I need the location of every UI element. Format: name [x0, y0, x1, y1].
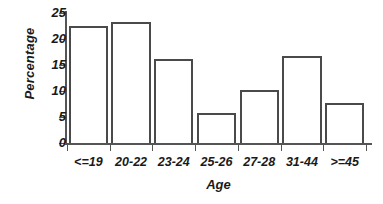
x-tick-label-20-22: 20-22 — [110, 155, 153, 169]
x-tick-label-23-24: 23-24 — [152, 155, 195, 169]
bar-31-44 — [282, 56, 321, 145]
bar-27-28 — [240, 90, 279, 145]
bar-20-22 — [111, 22, 150, 145]
y-tick-label: 15 — [18, 57, 66, 72]
bar-<=19 — [69, 26, 108, 145]
x-axis-line — [65, 143, 372, 145]
y-tick-label: 5 — [18, 109, 66, 124]
x-axis-title: Age — [65, 177, 372, 192]
x-tick-label-27-28: 27-28 — [238, 155, 281, 169]
y-tick-label: 20 — [18, 31, 66, 46]
bar-chart-figure: Percentage 0510152025 <=1920-2223-2425-2… — [0, 0, 383, 204]
x-tick-mark — [152, 145, 153, 151]
x-tick-mark — [238, 145, 239, 151]
y-tick-label: 10 — [18, 83, 66, 98]
y-tick-label: 25 — [18, 5, 66, 20]
x-tick-mark — [281, 145, 282, 151]
x-tick-label-25-26: 25-26 — [195, 155, 238, 169]
bar->=45 — [325, 103, 364, 145]
bar-23-24 — [154, 59, 193, 145]
x-tick-mark — [366, 145, 367, 151]
x-tick-mark — [67, 145, 68, 151]
bar-25-26 — [197, 113, 236, 145]
x-tick-mark — [110, 145, 111, 151]
x-tick-label->=45: >=45 — [323, 155, 366, 169]
x-tick-label-31-44: 31-44 — [281, 155, 324, 169]
x-tick-label-<=19: <=19 — [67, 155, 110, 169]
x-tick-mark — [323, 145, 324, 151]
y-tick-label: 0 — [18, 135, 66, 150]
x-tick-mark — [195, 145, 196, 151]
